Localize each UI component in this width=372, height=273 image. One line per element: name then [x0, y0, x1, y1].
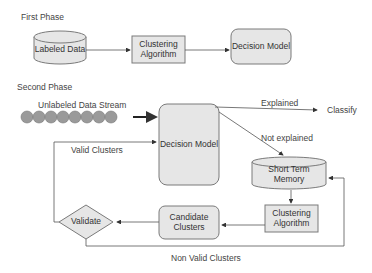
- unlabeled-stream-label: Unlabeled Data Stream: [38, 101, 126, 110]
- short-term-memory-label: Short Term Memory: [252, 166, 326, 184]
- valid-clusters-label: Valid Clusters: [71, 146, 123, 155]
- clustering-algorithm-label-2: Clustering Algorithm: [265, 205, 318, 232]
- not-explained-label: Not explained: [261, 134, 313, 143]
- decision-model-label-2: Decision Model: [159, 104, 219, 185]
- candidate-clusters-label: Candidate Clusters: [163, 206, 215, 239]
- validate-label: Validate: [62, 215, 110, 229]
- first-phase-title: First Phase: [21, 13, 64, 22]
- data-stream-circles: [21, 111, 117, 123]
- decision-model-label-1: Decision Model: [231, 29, 291, 64]
- clustering-algorithm-label-1: Clustering Algorithm: [132, 36, 185, 63]
- second-phase-title: Second Phase: [17, 83, 72, 92]
- classify-label: Classify: [327, 106, 357, 115]
- non-valid-clusters-label: Non Valid Clusters: [171, 254, 241, 263]
- explained-label: Explained: [261, 99, 298, 108]
- labeled-data-label: Labeled Data: [34, 40, 86, 60]
